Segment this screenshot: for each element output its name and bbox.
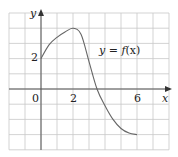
grid: [9, 13, 169, 150]
curve-label-arg: (x): [126, 44, 141, 57]
x-tick-6: 6: [134, 92, 141, 105]
curve-label: y = f(x): [98, 44, 140, 57]
y-tick-2: 2: [31, 51, 38, 64]
curve-label-prefix: y =: [98, 44, 121, 57]
y-axis-label: y: [29, 7, 37, 20]
x-tick-0: 0: [32, 92, 39, 105]
x-axis-label: x: [162, 92, 169, 105]
axes: [9, 9, 172, 150]
graph: y x 0 2 6 2 y = f(x): [0, 0, 178, 157]
y-axis-arrow-icon: [38, 9, 44, 16]
x-tick-2: 2: [70, 92, 77, 105]
